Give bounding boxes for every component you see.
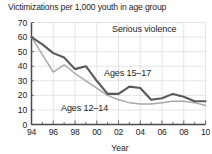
x-axis-ticks: 949698000204060810 <box>27 121 211 138</box>
y-tick-label: 20 <box>18 90 28 100</box>
x-tick-label: 04 <box>136 127 146 137</box>
line-chart-plot: 010203040506070 949698000204060810 Year … <box>0 0 212 154</box>
chart-container: Victimizations per 1,000 youth in age gr… <box>0 0 212 154</box>
x-tick-label: 10 <box>201 127 211 137</box>
x-axis-title: Year <box>111 143 129 153</box>
y-tick-label: 50 <box>18 47 28 57</box>
y-tick-label: 10 <box>18 105 28 115</box>
series-label-ages-12-14: Ages 12–14 <box>61 103 108 113</box>
y-tick-label: 30 <box>18 76 28 86</box>
x-tick-label: 00 <box>92 127 102 137</box>
y-tick-label: 40 <box>18 61 28 71</box>
x-tick-label: 06 <box>157 127 167 137</box>
series-label-ages-15-17: Ages 15–17 <box>104 68 151 78</box>
y-tick-label: 70 <box>18 18 28 28</box>
x-tick-label: 08 <box>179 127 189 137</box>
x-tick-label: 94 <box>27 127 37 137</box>
x-tick-label: 96 <box>49 127 59 137</box>
x-tick-label: 98 <box>70 127 80 137</box>
x-tick-label: 02 <box>114 127 124 137</box>
annotation-serious-violence: Serious violence <box>112 24 177 34</box>
y-tick-label: 60 <box>18 32 28 42</box>
